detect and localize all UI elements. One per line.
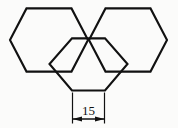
dimension-arrow-left-icon	[73, 116, 83, 121]
dimension-arrow-right-icon	[95, 116, 105, 121]
upper-right-hexagon	[89, 8, 167, 71]
figure-canvas: 15	[0, 0, 178, 128]
hexagon-figure: 15	[0, 0, 178, 128]
dimension-value-label: 15	[82, 103, 95, 118]
upper-left-hexagon	[10, 8, 88, 71]
lower-middle-hexagon	[50, 38, 128, 90]
